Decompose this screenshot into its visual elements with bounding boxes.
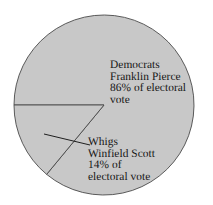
- democrats-party-name: Democrats: [110, 60, 186, 72]
- slice-label-whigs: Whigs Winfield Scott 14% of electoral vo…: [88, 137, 155, 183]
- whigs-percent-line-2: electoral vote: [88, 172, 155, 184]
- democrats-percent-line-2: vote: [110, 95, 186, 107]
- slice-label-democrats: Democrats Franklin Pierce 86% of elector…: [110, 60, 186, 106]
- whigs-party-name: Whigs: [88, 137, 155, 149]
- pie-chart-figure: Democrats Franklin Pierce 86% of elector…: [0, 0, 213, 205]
